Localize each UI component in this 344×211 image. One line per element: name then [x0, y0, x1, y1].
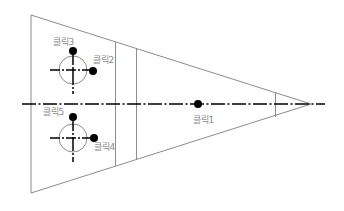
click-label-2: 클릭2 [93, 55, 114, 65]
click-label-3: 클릭3 [53, 37, 74, 47]
click-point-5[interactable] [69, 113, 77, 121]
click-point-3[interactable] [69, 47, 77, 55]
lower-crosshair-group [50, 117, 93, 162]
click-label-1: 클릭1 [193, 115, 214, 125]
lower-center-dot [72, 137, 74, 139]
upper-crosshair-group [50, 51, 92, 94]
click-label-5: 클릭5 [43, 107, 64, 117]
click-point-2[interactable] [89, 67, 97, 75]
click-label-4: 클릭4 [94, 142, 115, 152]
upper-center-dot [72, 69, 74, 71]
click-point-1[interactable] [194, 100, 202, 108]
diagram-canvas [0, 0, 344, 211]
click-point-4[interactable] [90, 134, 98, 142]
